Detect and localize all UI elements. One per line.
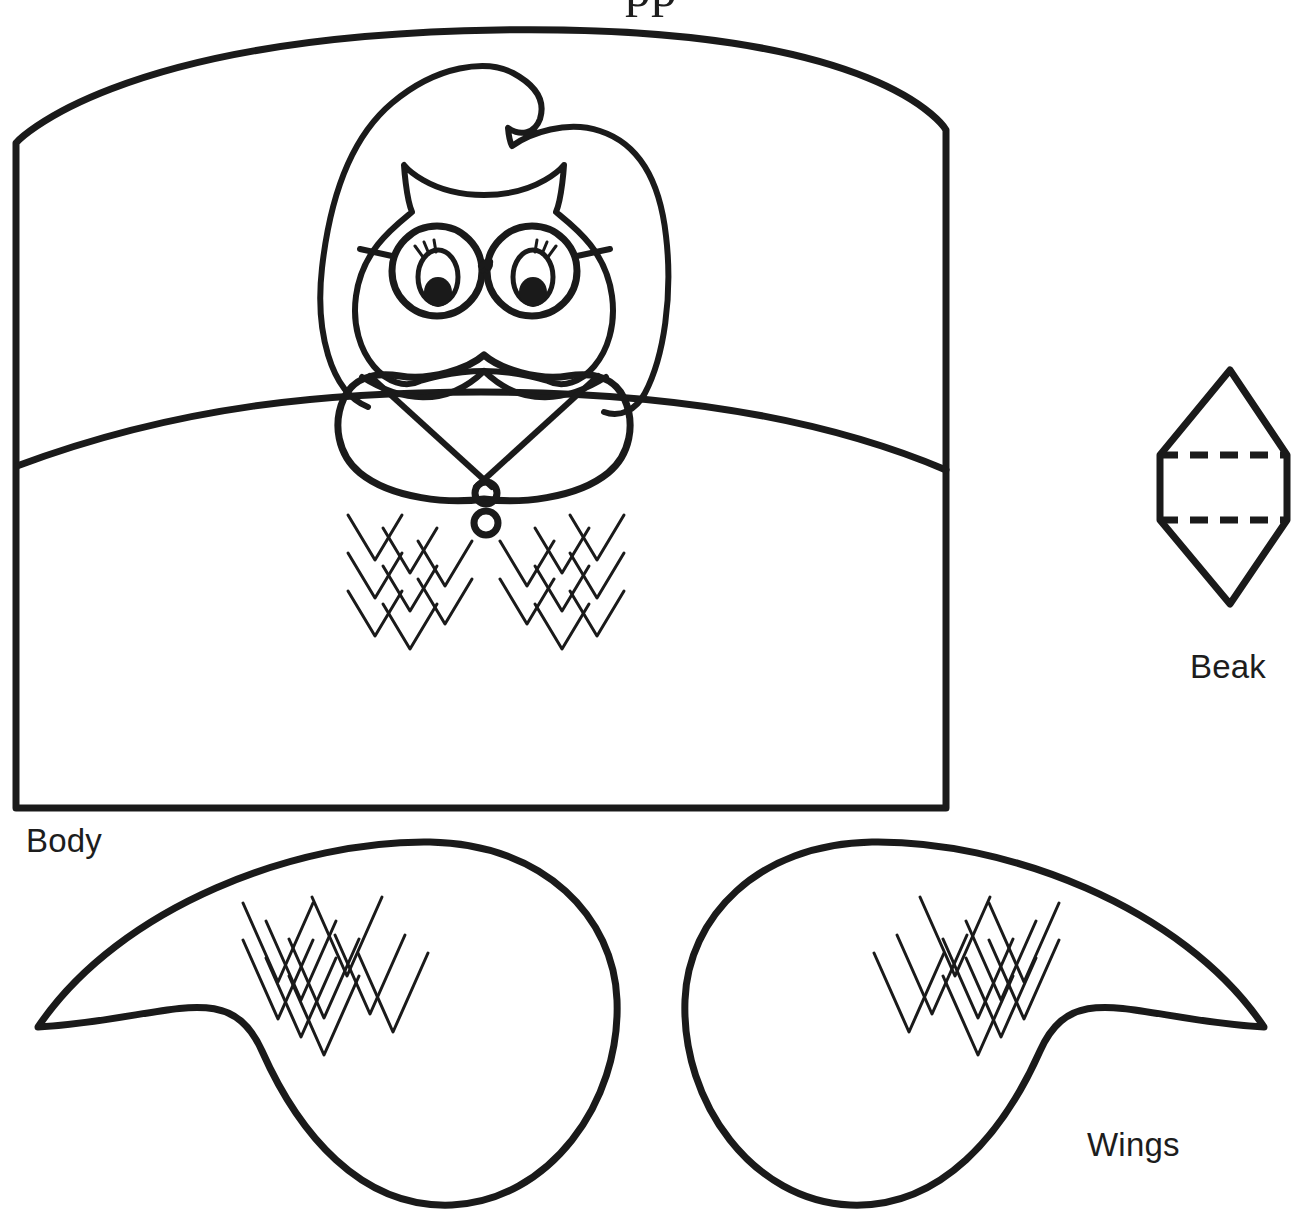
beak-piece: [1160, 370, 1287, 604]
body-feathers-right: [500, 515, 624, 649]
body-feathers-left: [348, 515, 472, 649]
left-wing-feathers: [243, 897, 428, 1055]
glasses-left-temple: [360, 249, 392, 256]
glasses-bridge-line: [481, 261, 490, 267]
owl-craft-template-drawing: [0, 0, 1302, 1217]
body-piece: [16, 30, 946, 808]
left-wing-outline: [38, 842, 617, 1205]
owl-right-pupil: [519, 277, 547, 307]
owl-button-lower: [474, 511, 498, 535]
owl-left-pupil: [424, 277, 452, 307]
wings-piece: [38, 842, 1264, 1205]
body-label: Body: [26, 822, 102, 860]
owl-button-upper: [475, 482, 497, 504]
beak-label: Beak: [1190, 648, 1266, 686]
beak-outline: [1160, 370, 1287, 604]
body-outline: [16, 30, 946, 808]
body-chest-curve: [17, 392, 946, 470]
template-page: pp: [0, 0, 1302, 1217]
glasses-right-temple: [577, 249, 610, 256]
right-wing-feathers: [874, 897, 1059, 1055]
wings-label: Wings: [1087, 1126, 1180, 1164]
